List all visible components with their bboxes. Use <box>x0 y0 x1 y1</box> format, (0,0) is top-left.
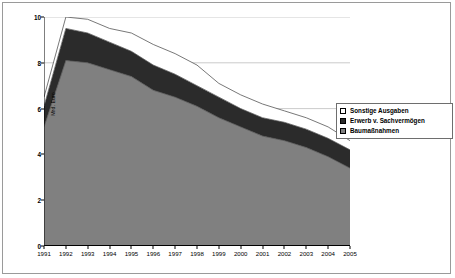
x-tick-mark <box>131 246 132 249</box>
x-tick-label: 2002 <box>278 250 292 257</box>
y-tick-mark <box>41 62 44 63</box>
x-tick-label: 1991 <box>37 250 51 257</box>
x-tick-label: 2003 <box>300 250 314 257</box>
legend-item-label: Baumaßnahmen <box>350 128 399 134</box>
legend-swatch-icon <box>340 108 346 114</box>
y-tick-mark <box>41 200 44 201</box>
x-tick-mark <box>153 246 154 249</box>
x-tick-label: 1998 <box>190 250 204 257</box>
x-tick-mark <box>350 246 351 249</box>
legend-item[interactable]: Erwerb v. Sachvermögen <box>340 116 449 126</box>
y-axis-title: Mrd. Euro <box>50 54 56 154</box>
x-tick-mark <box>44 246 45 249</box>
x-tick-label: 2005 <box>343 250 357 257</box>
x-tick-mark <box>218 246 219 249</box>
legend-item[interactable]: Sonstige Ausgaben <box>340 106 449 116</box>
x-tick-label: 1999 <box>212 250 226 257</box>
x-tick-mark <box>284 246 285 249</box>
x-tick-label: 1993 <box>81 250 95 257</box>
x-tick-mark <box>65 246 66 249</box>
y-tick-mark <box>41 154 44 155</box>
x-tick-label: 2004 <box>321 250 335 257</box>
x-tick-mark <box>175 246 176 249</box>
x-tick-label: 1992 <box>59 250 73 257</box>
chart-frame: Mrd. Euro 0246810 1991199219931994199519… <box>2 2 451 274</box>
x-tick-mark <box>197 246 198 249</box>
x-tick-label: 1994 <box>103 250 117 257</box>
x-tick-mark <box>240 246 241 249</box>
legend-item-label: Sonstige Ausgaben <box>350 108 409 114</box>
plot-area: Mrd. Euro 0246810 1991199219931994199519… <box>44 17 350 246</box>
x-tick-mark <box>87 246 88 249</box>
x-tick-mark <box>328 246 329 249</box>
x-tick-mark <box>109 246 110 249</box>
area-chart-svg <box>44 17 350 246</box>
x-tick-label: 1996 <box>147 250 161 257</box>
x-tick-label: 2000 <box>234 250 248 257</box>
x-tick-mark <box>262 246 263 249</box>
legend-swatch-icon <box>340 118 346 124</box>
legend-item-label: Erwerb v. Sachvermögen <box>350 118 425 124</box>
x-tick-label: 1997 <box>168 250 182 257</box>
legend-swatch-icon <box>340 128 346 134</box>
y-tick-mark <box>41 108 44 109</box>
y-tick-label: 10 <box>34 14 41 21</box>
x-tick-mark <box>306 246 307 249</box>
legend-item[interactable]: Baumaßnahmen <box>340 126 449 136</box>
y-tick-mark <box>41 17 44 18</box>
chart-legend: Sonstige AusgabenErwerb v. SachvermögenB… <box>336 103 453 139</box>
x-tick-label: 1995 <box>125 250 139 257</box>
series-areas <box>44 17 350 246</box>
x-tick-label: 2001 <box>256 250 270 257</box>
